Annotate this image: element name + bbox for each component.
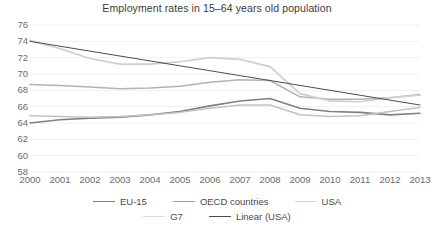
y-axis-tick-label: 66 bbox=[2, 102, 28, 112]
series-line bbox=[30, 41, 420, 102]
x-axis-tick-label: 2013 bbox=[400, 175, 434, 185]
legend-swatch-icon bbox=[173, 201, 195, 202]
series-lines bbox=[30, 41, 420, 123]
legend-swatch-icon bbox=[295, 201, 317, 202]
legend-item[interactable]: USA bbox=[295, 197, 342, 207]
legend-item-label: OECD countries bbox=[200, 197, 269, 207]
series-line bbox=[30, 80, 420, 100]
plot-area bbox=[30, 25, 420, 172]
legend-row-primary: EU-15OECD countriesUSA bbox=[0, 194, 434, 209]
y-axis-tick-label: 68 bbox=[2, 85, 28, 95]
chart-title: Employment rates in 15–64 years old popu… bbox=[0, 2, 434, 14]
y-axis-tick-label: 64 bbox=[2, 118, 28, 128]
legend-item[interactable]: OECD countries bbox=[173, 197, 269, 207]
y-axis-tick-label: 72 bbox=[2, 53, 28, 63]
legend-item[interactable]: EU-15 bbox=[93, 197, 147, 207]
chart-legend: EU-15OECD countriesUSA G7Linear (USA) bbox=[0, 194, 434, 228]
y-axis-tick-label: 74 bbox=[2, 36, 28, 46]
y-axis-tick-label: 60 bbox=[2, 151, 28, 161]
chart-container: Employment rates in 15–64 years old popu… bbox=[0, 0, 434, 240]
legend-item-label: G7 bbox=[170, 212, 183, 222]
legend-item[interactable]: Linear (USA) bbox=[209, 212, 291, 222]
legend-item-label: Linear (USA) bbox=[236, 212, 291, 222]
legend-swatch-icon bbox=[93, 201, 115, 202]
legend-item-label: USA bbox=[322, 197, 342, 207]
legend-item-label: EU-15 bbox=[120, 197, 147, 207]
chart-plot-svg bbox=[30, 25, 420, 172]
series-line bbox=[30, 41, 420, 105]
y-axis-tick-label: 76 bbox=[2, 20, 28, 30]
legend-swatch-icon bbox=[143, 216, 165, 217]
legend-row-secondary: G7Linear (USA) bbox=[0, 209, 434, 224]
legend-swatch-icon bbox=[209, 216, 231, 217]
x-axis: 2000200120022003200420052006200720082009… bbox=[30, 175, 420, 189]
legend-item[interactable]: G7 bbox=[143, 212, 183, 222]
y-axis-tick-label: 62 bbox=[2, 134, 28, 144]
y-axis-tick-label: 70 bbox=[2, 69, 28, 79]
